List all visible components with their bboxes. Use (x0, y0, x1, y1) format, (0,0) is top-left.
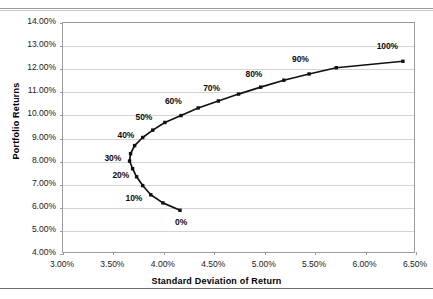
y-tick-mark (60, 162, 63, 163)
x-tick-label: 6.00% (339, 259, 391, 269)
y-tick-label: 7.00% (0, 178, 56, 188)
x-tick-mark (366, 252, 367, 255)
y-tick-mark (60, 69, 63, 70)
y-tick-label: 9.00% (0, 132, 56, 142)
data-point-label: 50% (136, 112, 153, 122)
x-tick-label: 3.50% (86, 259, 138, 269)
page-top-rule (0, 8, 433, 9)
gridline-horizontal (63, 46, 414, 47)
page-top-rule-secondary (0, 10, 433, 11)
x-tick-label: 5.00% (238, 259, 290, 269)
gridline-horizontal (63, 231, 414, 232)
y-axis-title: Portfolio Returns (11, 61, 21, 181)
gridline-horizontal (63, 69, 414, 70)
y-tick-mark (60, 208, 63, 209)
y-tick-mark (60, 115, 63, 116)
gridline-horizontal (63, 139, 414, 140)
data-point-label: 90% (292, 54, 309, 64)
data-point-label: 20% (112, 170, 129, 180)
gridline-horizontal (63, 92, 414, 93)
gridline-horizontal (63, 185, 414, 186)
y-tick-mark (60, 185, 63, 186)
x-tick-label: 5.50% (288, 259, 340, 269)
y-tick-label: 8.00% (0, 155, 56, 165)
x-tick-label: 4.50% (187, 259, 239, 269)
gridline-horizontal (63, 208, 414, 209)
x-tick-mark (113, 252, 114, 255)
gridline-horizontal (63, 115, 414, 116)
data-point-label: 10% (126, 193, 143, 203)
y-tick-mark (60, 139, 63, 140)
x-tick-mark (164, 252, 165, 255)
data-point-label: 80% (246, 69, 263, 79)
y-tick-label: 6.00% (0, 201, 56, 211)
y-tick-label: 5.00% (0, 224, 56, 234)
data-point-label: 100% (377, 41, 398, 51)
data-point-label: 30% (104, 153, 121, 163)
y-tick-mark (60, 23, 63, 24)
x-tick-label: 4.00% (137, 259, 189, 269)
y-tick-label: 11.00% (0, 85, 56, 95)
x-tick-label: 3.00% (36, 259, 88, 269)
y-tick-label: 14.00% (0, 16, 56, 26)
x-tick-mark (214, 252, 215, 255)
y-tick-label: 4.00% (0, 247, 56, 257)
x-tick-mark (416, 252, 417, 255)
x-tick-mark (315, 252, 316, 255)
chart-page: 4.00%5.00%6.00%7.00%8.00%9.00%10.00%11.0… (0, 0, 433, 299)
y-tick-mark (60, 231, 63, 232)
y-tick-label: 12.00% (0, 62, 56, 72)
y-tick-label: 10.00% (0, 108, 56, 118)
plot-area (62, 22, 415, 253)
data-point-label: 40% (118, 130, 135, 140)
data-point-label: 60% (165, 96, 182, 106)
x-axis-title: Standard Deviation of Return (0, 276, 433, 286)
x-tick-label: 6.50% (389, 259, 433, 269)
data-point-label: 0% (175, 217, 187, 227)
x-tick-mark (265, 252, 266, 255)
y-tick-mark (60, 46, 63, 47)
y-tick-mark (60, 92, 63, 93)
y-tick-label: 13.00% (0, 39, 56, 49)
page-bottom-rule (0, 288, 433, 289)
x-tick-mark (63, 252, 64, 255)
data-point-label: 70% (203, 83, 220, 93)
